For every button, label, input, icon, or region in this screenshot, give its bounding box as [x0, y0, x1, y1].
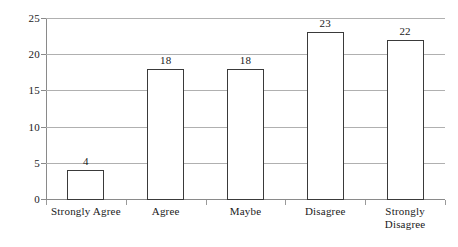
plot-area	[46, 18, 445, 199]
x-axis-category-label: Disagree	[280, 205, 370, 218]
y-axis-tick-mark	[41, 18, 46, 19]
x-axis-divider-tick	[206, 200, 207, 205]
y-axis-tick-label: 10	[14, 122, 40, 133]
y-axis-tick-labels: 0510152025	[12, 0, 40, 247]
y-axis-tick-label: 25	[14, 13, 40, 24]
y-axis-tick-label: 5	[14, 158, 40, 169]
x-axis-category-label: Maybe	[201, 205, 291, 218]
bar[interactable]	[307, 32, 344, 200]
y-axis-tick-mark	[41, 90, 46, 91]
bar-value-label: 23	[305, 18, 345, 29]
bar-chart: 0510152025 Strongly AgreeAgreeMaybeDisag…	[0, 0, 458, 247]
x-axis-divider-tick	[285, 200, 286, 205]
bar-value-label: 22	[385, 26, 425, 37]
y-axis-tick-mark	[41, 54, 46, 55]
bar[interactable]	[227, 69, 264, 200]
x-axis-category-label: Agree	[121, 205, 211, 218]
bar-value-label: 18	[146, 55, 186, 66]
y-axis-tick-label: 0	[14, 194, 40, 205]
gridline	[46, 18, 445, 19]
x-axis-divider-tick	[46, 200, 47, 205]
x-axis-divider-tick	[126, 200, 127, 205]
y-axis-tick-mark	[41, 163, 46, 164]
y-axis-tick-label: 20	[14, 49, 40, 60]
x-axis-divider-tick	[445, 200, 446, 205]
bar-value-label: 4	[66, 156, 106, 167]
bar[interactable]	[387, 40, 424, 200]
x-axis-category-label: Strongly Agree	[41, 205, 131, 218]
x-axis-category-label: Strongly Disagree	[360, 205, 450, 231]
x-axis-divider-tick	[365, 200, 366, 205]
bar-value-label: 18	[226, 55, 266, 66]
y-axis-tick-mark	[41, 199, 46, 200]
y-axis-tick-mark	[41, 127, 46, 128]
y-axis-tick-label: 15	[14, 85, 40, 96]
bar[interactable]	[147, 69, 184, 200]
bar[interactable]	[67, 170, 104, 200]
